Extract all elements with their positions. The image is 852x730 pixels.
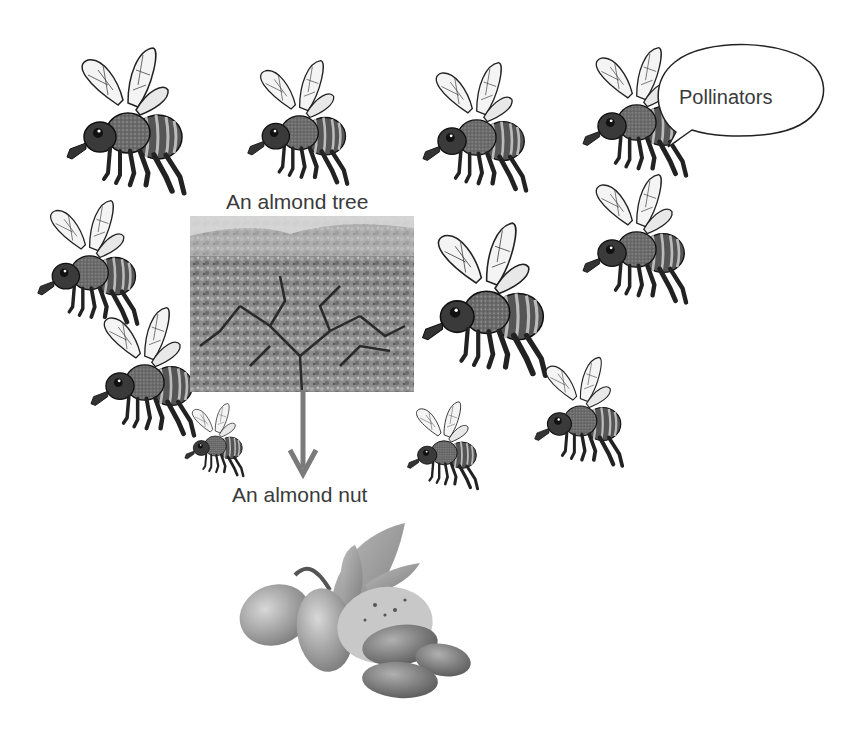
almond-tree-label: An almond tree xyxy=(226,190,368,214)
bee-icon xyxy=(402,400,483,496)
almond-nut-label: An almond nut xyxy=(232,483,367,507)
almond-tree-photo xyxy=(190,216,414,392)
pollinators-label: Pollinators xyxy=(679,86,772,109)
bee-icon xyxy=(58,45,193,205)
bee-icon xyxy=(180,402,248,482)
bee-icon xyxy=(240,58,355,194)
almond-nut-photo xyxy=(235,515,485,705)
bee-icon xyxy=(415,60,534,201)
arrow-down-icon xyxy=(286,390,320,480)
bee-icon xyxy=(528,355,629,475)
bee-icon xyxy=(575,172,694,313)
